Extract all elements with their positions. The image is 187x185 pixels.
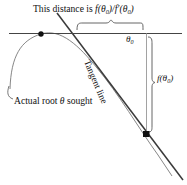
f-theta0-label: f(θ0) bbox=[157, 74, 173, 84]
distance-formula-close: ) bbox=[131, 3, 134, 14]
distance-label-text: This distance is bbox=[33, 3, 95, 14]
f-theta0-open: f(θ bbox=[157, 73, 167, 83]
actual-root-label: Actual root θ sought bbox=[14, 96, 93, 106]
distance-brace bbox=[77, 20, 143, 30]
actual-root-prefix: Actual root bbox=[14, 95, 60, 106]
tangent-point-marker bbox=[143, 131, 150, 137]
distance-formula-numerator: f(θ bbox=[95, 3, 106, 14]
f-theta0-brace bbox=[148, 37, 155, 132]
distance-formula-middle: )/f′(θ bbox=[109, 3, 128, 14]
theta0-subscript: 0 bbox=[131, 39, 134, 45]
newton-method-figure: This distance is f(θ0)/f′(θ0) θ0 f(θ0) T… bbox=[0, 0, 187, 185]
root-point-marker bbox=[38, 31, 43, 36]
distance-label: This distance is f(θ0)/f′(θ0) bbox=[33, 4, 134, 15]
theta0-label: θ0 bbox=[126, 35, 134, 45]
actual-root-suffix: sought bbox=[65, 95, 93, 106]
f-theta0-close: ) bbox=[170, 73, 173, 83]
